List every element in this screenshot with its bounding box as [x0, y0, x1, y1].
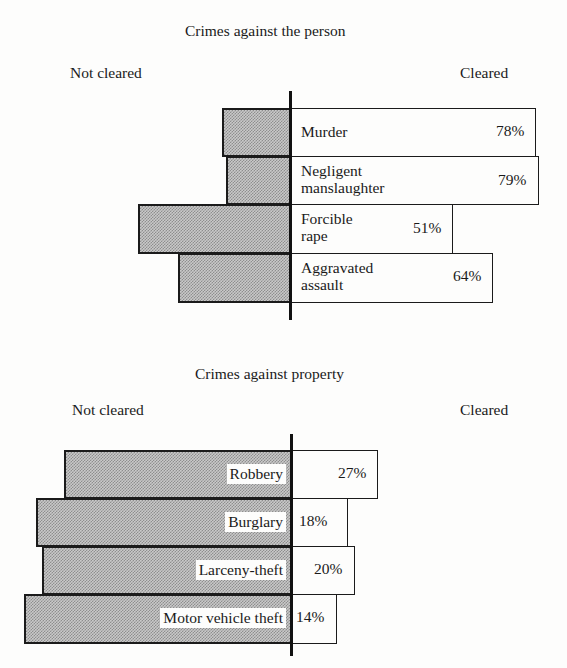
- cleared-value: 79%: [498, 171, 526, 189]
- bar-label-line2: manslaughter: [301, 179, 385, 196]
- bar-label-line1: Forcible: [301, 210, 353, 227]
- bar-label: Larceny-theft: [196, 560, 286, 580]
- cleared-value: 14%: [296, 608, 324, 626]
- cleared-label: Cleared: [460, 64, 508, 82]
- chart-title: Crimes against property: [195, 365, 344, 383]
- bar-label-line2: assault: [301, 276, 343, 293]
- not-cleared-label: Not cleared: [70, 64, 142, 82]
- cleared-value: 64%: [453, 267, 481, 285]
- cleared-label: Cleared: [460, 401, 508, 419]
- cleared-value: 51%: [413, 219, 441, 237]
- not-cleared-bar-aggravated-assault: [178, 253, 292, 303]
- center-axis: [289, 91, 292, 320]
- cleared-value: 18%: [299, 512, 327, 530]
- bar-label-line1: Negligent: [301, 162, 362, 179]
- cleared-value: 27%: [338, 464, 366, 482]
- bar-label-line2: rape: [301, 227, 328, 244]
- bar-label: Murder: [301, 123, 348, 140]
- not-cleared-bar-negligent-manslaughter: [226, 156, 292, 205]
- bar-label-line1: Aggravated: [301, 259, 373, 276]
- bar-label: Burglary: [225, 512, 286, 532]
- cleared-value: 20%: [314, 560, 342, 578]
- center-axis: [290, 434, 293, 656]
- not-cleared-bar-forcible-rape: [138, 204, 292, 254]
- not-cleared-bar-murder: [222, 108, 292, 157]
- cleared-value: 78%: [496, 122, 524, 140]
- chart-title: Crimes against the person: [185, 22, 346, 40]
- bar-label: Robbery: [227, 464, 286, 484]
- bar-label: Motor vehicle theft: [160, 608, 286, 628]
- not-cleared-label: Not cleared: [72, 401, 144, 419]
